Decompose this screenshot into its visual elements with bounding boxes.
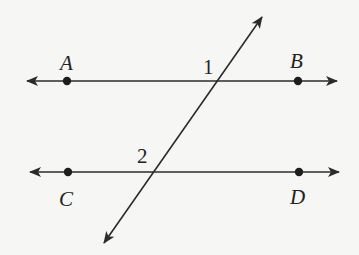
label-d: D — [289, 185, 305, 209]
point-c — [64, 168, 72, 176]
transversal-line — [104, 17, 262, 243]
point-b — [294, 77, 302, 85]
label-b: B — [290, 49, 303, 73]
parallel-lines-diagram: A B C D 1 2 — [0, 0, 359, 255]
angle-2-label: 2 — [137, 144, 148, 168]
point-d — [295, 168, 303, 176]
label-a: A — [58, 51, 73, 75]
label-c: C — [59, 187, 74, 211]
point-a — [63, 77, 71, 85]
angle-1-label: 1 — [203, 55, 214, 79]
diagram-canvas: A B C D 1 2 — [0, 0, 359, 255]
